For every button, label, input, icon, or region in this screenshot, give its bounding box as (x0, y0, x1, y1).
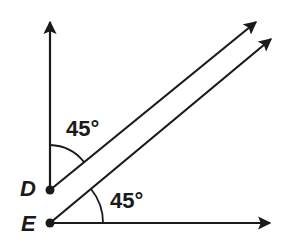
angle-label-d: 45° (66, 116, 99, 142)
label-e: E (21, 211, 36, 237)
point-d (46, 186, 55, 195)
angle-arc-d (50, 145, 84, 162)
point-e (46, 219, 55, 228)
diagram-lines (0, 0, 288, 241)
geometry-diagram: D E 45° 45° (0, 0, 288, 241)
angle-arc-e (91, 189, 103, 223)
label-d: D (20, 176, 36, 202)
angle-label-e: 45° (110, 188, 143, 214)
ray-d-diagonal (50, 22, 256, 190)
